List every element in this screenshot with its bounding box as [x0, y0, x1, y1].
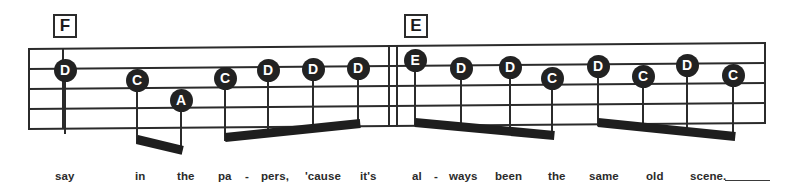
lyric-say: say	[55, 170, 75, 182]
note-e-8-stem	[414, 62, 416, 126]
note-d-10: D	[499, 56, 522, 79]
lyric-in: in	[135, 170, 145, 182]
beam-group-1	[136, 135, 184, 155]
barline-measure-3	[396, 45, 398, 127]
note-d-1: D	[54, 59, 77, 82]
lyric-scene: scene.	[690, 170, 726, 182]
lyric-its: it's	[360, 170, 377, 182]
note-c-4: C	[214, 67, 237, 90]
barline-start	[28, 48, 30, 130]
note-d-10-stem	[509, 69, 511, 135]
note-d-6: D	[302, 58, 325, 81]
rehearsal-mark-f: F	[53, 14, 77, 38]
note-d-7: D	[347, 57, 370, 80]
sheet-music-system: DCACDDDEDDCDCDCsayinthepa-pers,'causeit'…	[0, 0, 801, 195]
note-c-15: C	[722, 64, 745, 87]
lyric-ways: ways	[449, 170, 478, 182]
note-d-12: D	[587, 55, 610, 78]
note-d-14: D	[676, 54, 699, 77]
lyric-been: been	[495, 170, 522, 182]
beam-group-3	[415, 118, 555, 140]
melisma-extension-line	[725, 180, 770, 181]
note-d-5-stem	[267, 72, 269, 137]
barline-measure-2	[388, 45, 390, 127]
barline-end	[764, 42, 766, 124]
lyric-al: al	[412, 170, 422, 182]
lyric-old: old	[646, 170, 664, 182]
note-d-14-stem	[686, 67, 688, 135]
note-a-3: A	[170, 89, 193, 112]
lyric-same: same	[589, 170, 619, 182]
note-c-11: C	[541, 67, 564, 90]
lyric-hyphen-2: -	[434, 170, 438, 182]
lyric-pers: pers,	[261, 170, 289, 182]
note-d-5: D	[257, 59, 280, 82]
note-d-9: D	[450, 57, 473, 80]
lyric-cause: 'cause	[305, 170, 341, 182]
lyric-the-2: the	[548, 170, 566, 182]
note-c-13: C	[632, 65, 655, 88]
note-e-8: E	[404, 49, 427, 72]
lyric-hyphen-1: -	[245, 170, 249, 182]
beam-group-2	[225, 119, 361, 142]
lyric-the-1: the	[177, 170, 195, 182]
lyric-pa: pa	[218, 170, 232, 182]
note-c-2: C	[126, 69, 149, 92]
rehearsal-mark-e: E	[404, 14, 428, 38]
